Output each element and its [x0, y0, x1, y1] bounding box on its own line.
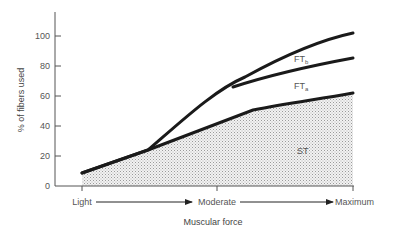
- st-area: [82, 93, 353, 186]
- fiber-recruitment-chart: 100 80 60 40 20 0 % of fibers used FTb F…: [0, 0, 393, 246]
- x-label-maximum: Maximum: [335, 197, 374, 207]
- y-tick-40: 40: [40, 121, 50, 131]
- x-ticks: [82, 186, 353, 191]
- ftb-label: FTb: [294, 54, 309, 65]
- y-tick-60: 60: [40, 91, 50, 101]
- y-axis-label: % of fibers used: [16, 68, 26, 133]
- y-ticks: [55, 36, 61, 156]
- x-label-light: Light: [72, 197, 92, 207]
- y-tick-0: 0: [45, 181, 50, 191]
- y-tick-80: 80: [40, 61, 50, 71]
- y-tick-100: 100: [35, 31, 50, 41]
- x-label-moderate: Moderate: [198, 197, 236, 207]
- fta-label: FTa: [294, 81, 309, 92]
- x-axis-label: Muscular force: [183, 217, 242, 227]
- st-label: ST: [297, 146, 309, 156]
- y-tick-20: 20: [40, 151, 50, 161]
